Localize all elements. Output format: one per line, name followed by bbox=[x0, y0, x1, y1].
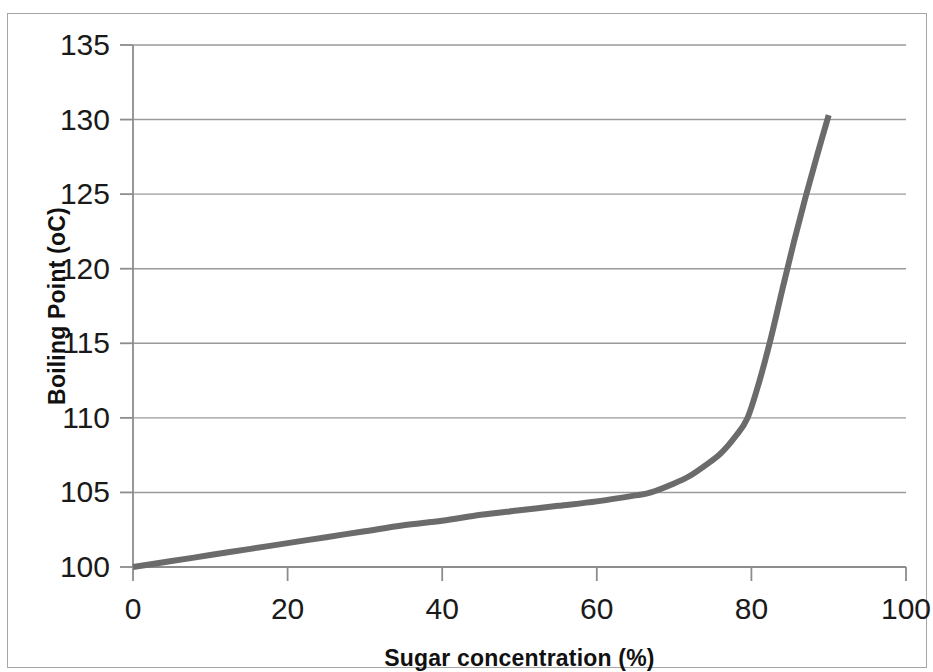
x-tick-label: 60 bbox=[580, 594, 613, 624]
x-tick-label: 40 bbox=[426, 594, 459, 624]
x-tick-label: 20 bbox=[271, 594, 304, 624]
y-axis-title: Boiling Point (oC) bbox=[44, 45, 71, 567]
chart-container: 100105110115120125130135 020406080100 Bo… bbox=[0, 0, 933, 672]
x-tick-marks-group bbox=[133, 567, 906, 581]
data-line bbox=[133, 115, 829, 567]
data-series-group bbox=[133, 115, 829, 567]
x-axis-title: Sugar concentration (%) bbox=[133, 645, 906, 672]
x-tick-label: 100 bbox=[881, 594, 931, 624]
axes-group bbox=[133, 45, 906, 567]
x-tick-label: 80 bbox=[735, 594, 768, 624]
x-tick-label: 0 bbox=[125, 594, 142, 624]
gridlines-group bbox=[133, 45, 906, 567]
y-tick-marks-group bbox=[120, 45, 133, 567]
plot-canvas bbox=[0, 0, 933, 672]
